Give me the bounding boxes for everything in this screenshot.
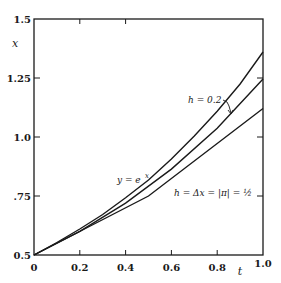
y-axis-label: x (12, 37, 19, 50)
annotation-h02: h = 0.2 (188, 95, 233, 114)
x-tick-label: 0.6 (163, 262, 180, 273)
y-tick-label: 1.25 (7, 73, 31, 84)
x-tick-label: 0 (31, 262, 38, 273)
y-tick-label: .75 (14, 191, 31, 202)
chart: 0 0.2 0.4 0.6 0.8 1.0 0.5 .75 1.0 1.25 1… (0, 0, 281, 283)
x-axis-label: t (238, 265, 243, 278)
annotation-h05: h = Δx = |π| = ½ (174, 188, 252, 199)
x-tick-label: 0.8 (208, 262, 225, 273)
x-tick-label: 0.2 (71, 262, 88, 273)
x-tick-label: 0.4 (117, 262, 134, 273)
plot-frame (34, 19, 263, 255)
y-tick-label: 1.5 (14, 14, 31, 25)
x-ticks (80, 19, 217, 255)
euler-h05-curve (34, 109, 263, 256)
y-tick-label: 1.0 (14, 132, 31, 143)
svg-text:h = 0.2: h = 0.2 (188, 95, 222, 105)
x-tick-label: 1.0 (254, 258, 271, 269)
svg-text:y = e: y = e (116, 175, 141, 185)
y-tick-label: 0.5 (14, 250, 31, 261)
svg-text:x: x (145, 172, 149, 180)
exact-curve (34, 52, 263, 255)
